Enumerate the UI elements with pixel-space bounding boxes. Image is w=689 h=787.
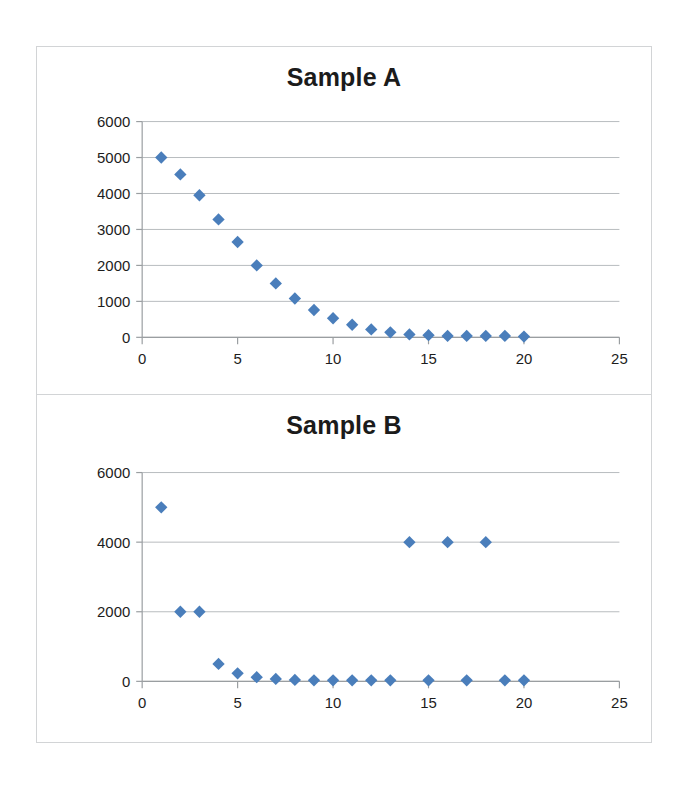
y-tick-label: 2000 — [97, 258, 130, 274]
data-point-marker — [308, 674, 320, 686]
y-tick-label: 3000 — [97, 222, 130, 238]
x-tick-label: 15 — [420, 351, 437, 367]
data-point-marker — [193, 189, 205, 201]
data-point-marker — [384, 326, 396, 338]
data-point-marker — [308, 304, 320, 316]
data-point-marker — [365, 323, 377, 335]
data-point-marker — [174, 168, 186, 180]
y-tick-label: 1000 — [97, 294, 130, 310]
data-point-marker — [212, 213, 224, 225]
x-tick-label: 20 — [516, 351, 533, 367]
y-tick-label: 2000 — [97, 604, 130, 620]
data-point-marker — [289, 674, 301, 686]
y-tick-label: 0 — [122, 674, 130, 690]
data-point-marker — [231, 236, 243, 248]
x-tick-label: 5 — [233, 695, 241, 711]
data-point-marker — [327, 312, 339, 324]
data-point-marker — [480, 330, 492, 342]
x-tick-label: 25 — [611, 351, 628, 367]
data-point-marker — [422, 329, 434, 341]
x-tick-label: 20 — [516, 695, 533, 711]
data-point-marker — [212, 658, 224, 670]
data-point-marker — [289, 292, 301, 304]
y-tick-label: 5000 — [97, 150, 130, 166]
data-point-marker — [518, 330, 530, 342]
x-tick-label: 0 — [138, 351, 146, 367]
x-tick-label: 15 — [420, 695, 437, 711]
data-point-marker — [480, 536, 492, 548]
data-point-marker — [270, 277, 282, 289]
data-point-marker — [365, 674, 377, 686]
y-tick-label: 4000 — [97, 186, 130, 202]
data-point-marker — [251, 259, 263, 271]
data-point-marker — [422, 674, 434, 686]
data-point-marker — [518, 674, 530, 686]
x-tick-label: 5 — [233, 351, 241, 367]
x-tick-label: 10 — [325, 695, 342, 711]
data-point-marker — [384, 674, 396, 686]
data-point-marker — [174, 606, 186, 618]
data-point-marker — [327, 674, 339, 686]
scatter-plot-sample-a: 01000200030004000500060000510152025 — [37, 47, 651, 394]
y-tick-label: 4000 — [97, 535, 130, 551]
figure-container: Sample A 0100020003000400050006000051015… — [36, 46, 652, 744]
data-point-marker — [441, 330, 453, 342]
y-tick-label: 6000 — [97, 465, 130, 481]
data-point-marker — [346, 674, 358, 686]
x-tick-label: 10 — [325, 351, 342, 367]
y-tick-label: 0 — [122, 330, 130, 346]
data-point-marker — [346, 319, 358, 331]
data-point-marker — [499, 674, 511, 686]
data-point-marker — [155, 151, 167, 163]
scatter-plot-sample-b: 02000400060000510152025 — [37, 395, 651, 742]
data-point-marker — [499, 330, 511, 342]
data-point-marker — [441, 536, 453, 548]
data-point-marker — [403, 536, 415, 548]
data-point-marker — [461, 330, 473, 342]
chart-panel-sample-a: Sample A 0100020003000400050006000051015… — [36, 46, 652, 395]
data-point-marker — [155, 501, 167, 513]
y-tick-label: 6000 — [97, 114, 130, 130]
x-tick-label: 0 — [138, 695, 146, 711]
data-point-marker — [193, 606, 205, 618]
data-point-marker — [403, 328, 415, 340]
data-point-marker — [270, 673, 282, 685]
x-tick-label: 25 — [611, 695, 628, 711]
data-point-marker — [231, 667, 243, 679]
chart-panel-sample-b: Sample B 02000400060000510152025 — [36, 394, 652, 743]
data-point-marker — [461, 674, 473, 686]
